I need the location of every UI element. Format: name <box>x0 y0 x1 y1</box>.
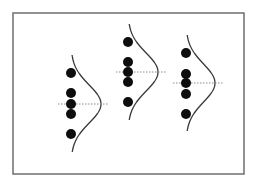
data-point <box>123 57 133 67</box>
group-3 <box>173 35 223 131</box>
data-point <box>181 48 191 58</box>
data-point <box>66 68 76 78</box>
group-1 <box>58 55 108 152</box>
data-point <box>66 99 76 109</box>
data-point <box>123 77 133 87</box>
data-point <box>123 97 133 107</box>
data-point <box>66 109 76 119</box>
data-point <box>181 109 191 119</box>
diagram-canvas <box>0 0 258 189</box>
data-point <box>181 89 191 99</box>
data-point <box>181 78 191 88</box>
data-point <box>181 69 191 79</box>
distribution-diagram <box>0 0 258 189</box>
data-point <box>123 37 133 47</box>
data-point <box>66 129 76 139</box>
distribution-groups <box>58 24 223 152</box>
data-point <box>123 67 133 77</box>
data-point <box>66 88 76 98</box>
group-2 <box>116 24 166 120</box>
